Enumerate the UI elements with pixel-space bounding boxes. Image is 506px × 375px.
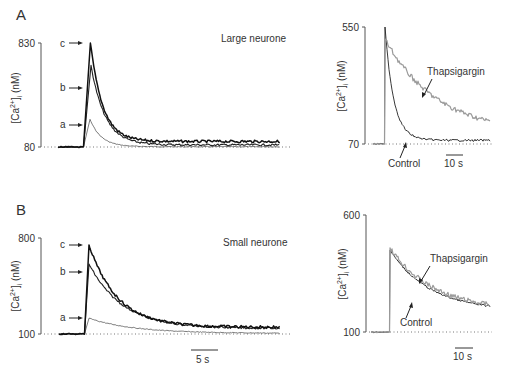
arrow-control [400,146,405,158]
svg-text:c: c [60,38,65,49]
trace-a [58,119,279,147]
label-control: Control [388,158,420,169]
panel-a-title: Large neurone [221,33,286,44]
panel-b-left-chart: 800 100 [Ca2+]i (nM) c b a Small neurone… [9,233,290,365]
y-tick-label-top: 800 [18,233,35,244]
trace-b [58,65,279,147]
svg-text:a: a [60,312,66,323]
arrow-b: b [60,266,83,277]
trace-control [373,27,490,144]
y-tick-label-bottom: 100 [18,329,35,340]
y-tick-label-top: 830 [18,38,35,49]
panel-b-right-chart: 600 100 [Ca2+]i (nM) Thapsigargin Contro… [336,210,492,362]
arrowhead [409,302,413,308]
trace-c [59,245,280,335]
y-tick-label-bottom: 70 [348,139,360,150]
figure-canvas: A B 830 80 [Ca2+]i (nM) c b a Large neur… [0,0,506,375]
arrow-a: a [60,119,83,130]
y-axis-title: [Ca2+]i (nM) [9,72,23,123]
arrow-thapsigargin [421,266,430,281]
arrowhead [403,142,407,148]
panel-letter-b: B [16,201,26,218]
panel-b-title: Small neurone [223,237,288,248]
label-thapsigargin: Thapsigargin [430,253,488,264]
y-axis-title: [Ca2+]i (nM) [335,60,349,111]
y-tick-label-bottom: 100 [343,327,360,338]
panel-letter-a: A [16,6,26,23]
label-thapsigargin: Thapsigargin [427,66,485,77]
arrow-a: a [60,312,83,323]
scale-bar-label: 5 s [196,354,209,365]
arrow-c: c [60,239,83,250]
y-tick-label-bottom: 80 [24,142,36,153]
arrow-c: c [60,38,83,49]
label-control: Control [400,317,432,328]
scale-bar-label: 10 s [444,158,463,169]
trace-b [59,264,280,334]
trace-thapsigargin [373,39,490,144]
y-axis-title: [Ca2+]i (nM) [336,248,350,299]
y-tick-label-top: 550 [342,22,359,33]
y-tick-label-top: 600 [343,210,360,221]
y-axis-title: [Ca2+]i (nM) [9,260,23,311]
arrow-b: b [60,82,83,93]
panel-a-left-chart: 830 80 [Ca2+]i (nM) c b a Large neurone [9,33,290,153]
svg-text:b: b [60,82,66,93]
svg-text:b: b [60,266,66,277]
panel-a-right-chart: 550 70 [Ca2+]i (nM) Thapsigargin Control… [335,22,492,169]
svg-text:c: c [60,239,65,250]
scale-bar-label: 10 s [453,351,472,362]
trace-c [58,43,280,148]
svg-text:a: a [60,119,66,130]
